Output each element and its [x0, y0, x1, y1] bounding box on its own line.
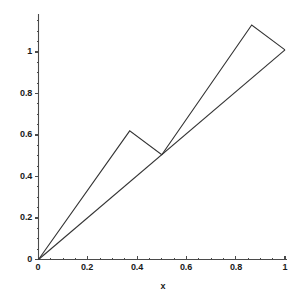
- x-tick-label-4: 0.8: [223, 262, 249, 272]
- y-tick-label-5: 1: [12, 46, 32, 56]
- x-tick-label-0: 0: [28, 262, 48, 272]
- plot-canvas: [0, 0, 301, 302]
- series-zigzag: [39, 25, 286, 259]
- y-tick-label-2: 0.4: [6, 171, 32, 181]
- x-tick-label-3: 0.6: [173, 262, 199, 272]
- series-diagonal: [39, 50, 286, 260]
- plot-figure: 0 0.2 0.4 0.6 0.8 1 0 0.2 0.4 0.6 0.8 1 …: [0, 0, 301, 302]
- x-tick-label-1: 0.2: [74, 262, 100, 272]
- axis-lines: [39, 14, 288, 260]
- x-axis-title: x: [148, 281, 178, 291]
- y-tick-label-4: 0.8: [6, 88, 32, 98]
- data-series-layer: [39, 25, 286, 259]
- x-tick-label-5: 1: [275, 262, 295, 272]
- y-tick-label-1: 0.2: [6, 212, 32, 222]
- x-tick-label-2: 0.4: [124, 262, 150, 272]
- y-tick-label-3: 0.6: [6, 129, 32, 139]
